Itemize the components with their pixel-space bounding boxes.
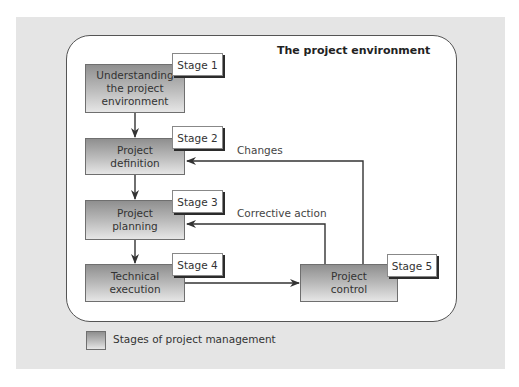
stage-1-box: Understanding the project environment: [85, 64, 185, 113]
stage-3-label: Stage 3: [172, 190, 223, 213]
stage-3-text: Project planning: [104, 207, 166, 233]
legend-swatch-icon: [86, 331, 106, 350]
stage-2-label: Stage 2: [172, 126, 223, 149]
stage-1-label: Stage 1: [172, 53, 223, 76]
stage-4-label: Stage 4: [172, 253, 223, 276]
stage-2-box: Project definition: [85, 138, 185, 175]
connector-lines: [0, 0, 519, 387]
stage-4-box: Technical execution: [85, 264, 185, 302]
stage-3-box: Project planning: [85, 200, 185, 240]
stage-5-label: Stage 5: [387, 254, 437, 277]
stage-5-text: Project control: [321, 270, 377, 296]
corrective-action-label: Corrective action: [237, 207, 327, 219]
stage-4-text: Technical execution: [104, 270, 166, 296]
stage-2-text: Project definition: [104, 144, 166, 170]
changes-label: Changes: [237, 144, 283, 156]
legend-label: Stages of project management: [113, 333, 276, 345]
stage-5-box: Project control: [300, 264, 398, 302]
stage-1-text: Understanding the project environment: [95, 69, 175, 108]
